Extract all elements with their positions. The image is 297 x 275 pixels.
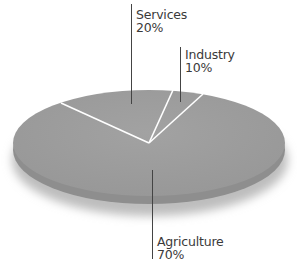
label-agriculture: Agriculture 70% bbox=[157, 235, 224, 261]
pie-chart bbox=[0, 0, 297, 275]
label-services: Services 20% bbox=[136, 8, 187, 34]
label-industry-pct: 10% bbox=[185, 61, 235, 74]
label-agriculture-pct: 70% bbox=[157, 248, 224, 261]
label-industry: Industry 10% bbox=[185, 48, 235, 74]
label-services-pct: 20% bbox=[136, 21, 187, 34]
